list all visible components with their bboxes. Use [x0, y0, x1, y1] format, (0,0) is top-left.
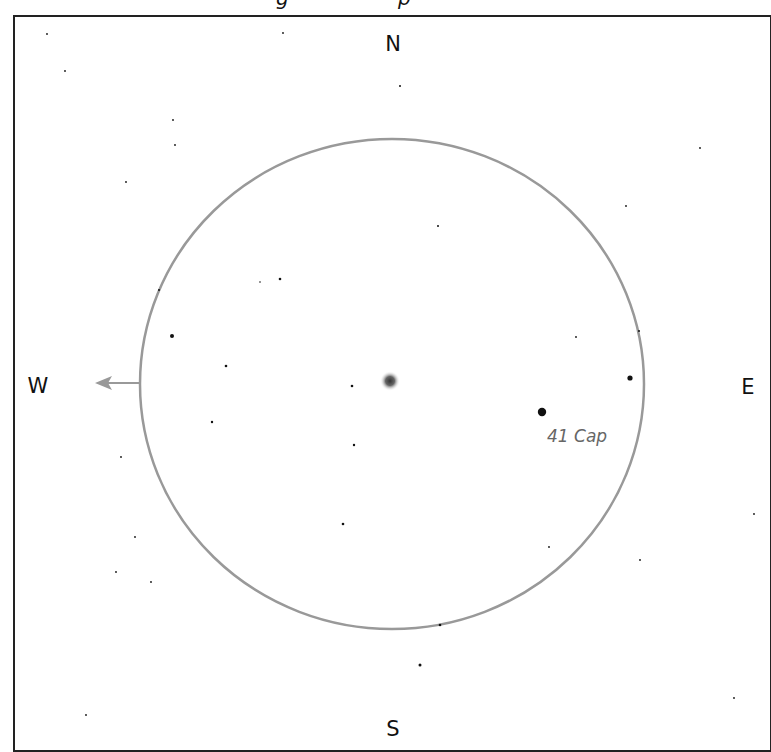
- star: [575, 336, 577, 338]
- star: [282, 32, 284, 34]
- star: [259, 281, 261, 283]
- star: [699, 147, 701, 149]
- compass-east: E: [741, 375, 754, 399]
- star: [85, 714, 87, 716]
- star: [437, 225, 439, 227]
- star: [439, 624, 442, 627]
- star: [399, 85, 401, 87]
- star: [125, 181, 127, 183]
- star: [548, 546, 550, 548]
- star: [120, 456, 122, 458]
- star: [170, 334, 174, 338]
- star: [150, 581, 152, 583]
- compass-north: N: [385, 32, 401, 56]
- star: [64, 70, 66, 72]
- stars: [46, 32, 755, 716]
- star-label-41-cap: 41 Cap: [547, 426, 607, 446]
- star: [342, 523, 345, 526]
- star: [174, 144, 176, 146]
- star: [538, 408, 546, 416]
- star: [225, 365, 228, 368]
- target-object-globular-cluster: [380, 371, 400, 391]
- star: [158, 289, 160, 291]
- star: [419, 664, 422, 667]
- star: [211, 421, 213, 423]
- star: [625, 205, 627, 207]
- star: [351, 385, 354, 388]
- star: [46, 33, 48, 35]
- star: [627, 375, 632, 380]
- star: [279, 278, 282, 281]
- star-field: [0, 0, 771, 752]
- star: [733, 697, 735, 699]
- drift-arrow-icon: [95, 376, 141, 390]
- star: [115, 571, 117, 573]
- star: [172, 119, 174, 121]
- star: [638, 330, 640, 332]
- star: [353, 444, 355, 446]
- compass-west: W: [28, 374, 49, 398]
- star: [134, 536, 136, 538]
- star: [753, 513, 755, 515]
- star: [639, 559, 641, 561]
- compass-south: S: [386, 717, 399, 741]
